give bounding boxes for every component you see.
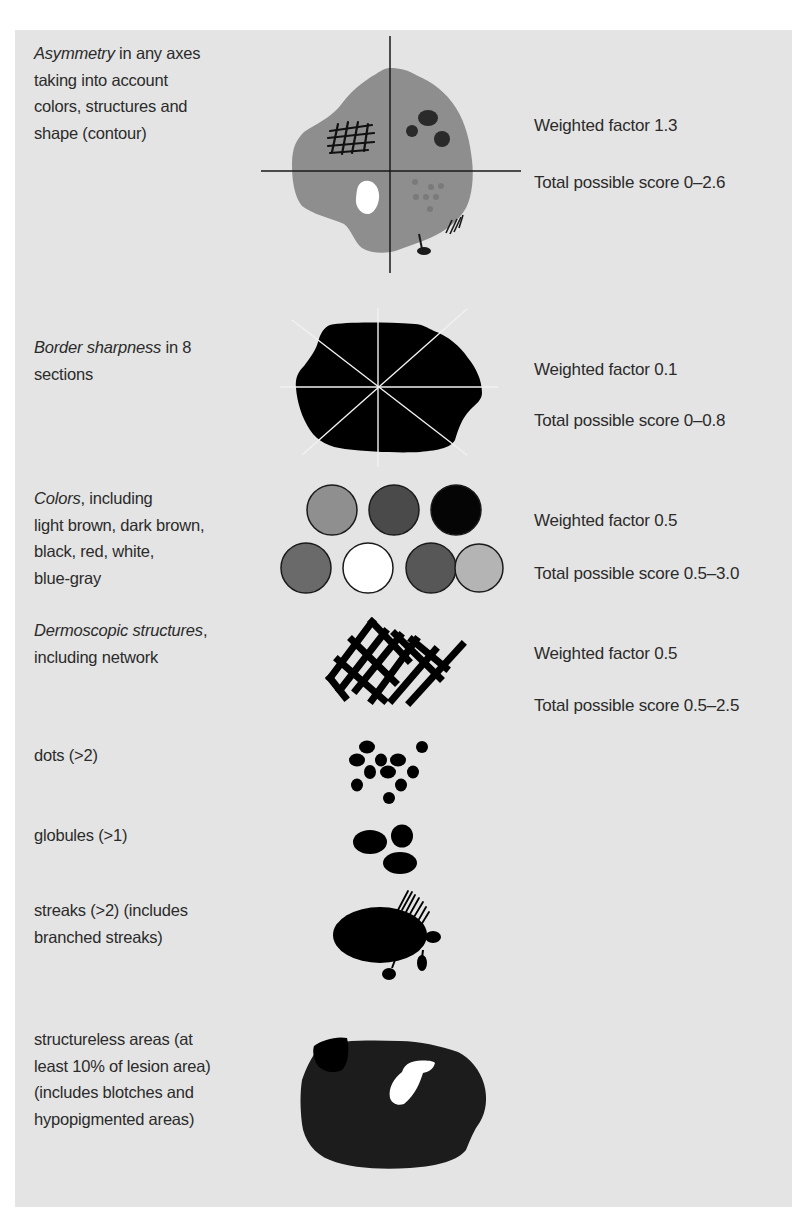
colors-label: Colors, including light brown, dark brow…: [34, 485, 204, 591]
pigment-network-icon: [330, 622, 462, 702]
streaks-label: streaks (>2) (includes branched streaks): [34, 897, 188, 950]
structures-term: Dermoscopic structures: [34, 621, 203, 639]
border-sharpness-lesion-icon: [280, 308, 498, 467]
globules-label: globules (>1): [34, 822, 127, 849]
border-term: Border sharpness: [34, 338, 161, 356]
dots-icon: [349, 741, 428, 805]
structureless-label: structureless areas (at least 10% of les…: [34, 1026, 211, 1132]
swatch-black: [431, 485, 481, 535]
swatch-red: [281, 543, 331, 593]
border-score-range: Total possible score 0–0.8: [534, 408, 725, 435]
asymmetry-lesion-icon: [261, 36, 521, 273]
structures-score-range: Total possible score 0.5–2.5: [534, 693, 739, 720]
asymmetry-weighted-factor: Weighted factor 1.3: [534, 113, 677, 140]
swatch-light-brown: [307, 485, 357, 535]
dots-label: dots (>2): [34, 742, 98, 769]
swatch-dark: [406, 543, 456, 593]
globules-icon: [353, 825, 417, 875]
colors-weighted-factor: Weighted factor 0.5: [534, 508, 677, 535]
asymmetry-label: Asymmetry in any axes taking into accoun…: [34, 40, 200, 146]
swatch-dark-brown: [369, 485, 419, 535]
colors-score-range: Total possible score 0.5–3.0: [534, 561, 739, 588]
swatch-blue-gray: [455, 544, 503, 592]
streaks-icon: [333, 891, 441, 980]
structures-weighted-factor: Weighted factor 0.5: [534, 641, 677, 668]
colors-term: Colors: [34, 489, 80, 507]
asymmetry-term: Asymmetry: [34, 44, 115, 62]
asymmetry-score-range: Total possible score 0–2.6: [534, 170, 725, 197]
color-swatches-icon: [281, 485, 503, 593]
border-label: Border sharpness in 8 sections: [34, 334, 191, 387]
structures-label: Dermoscopic structures, including networ…: [34, 617, 207, 670]
border-weighted-factor: Weighted factor 0.1: [534, 357, 677, 384]
swatch-white: [343, 543, 393, 593]
structureless-lesion-icon: [301, 1037, 487, 1168]
